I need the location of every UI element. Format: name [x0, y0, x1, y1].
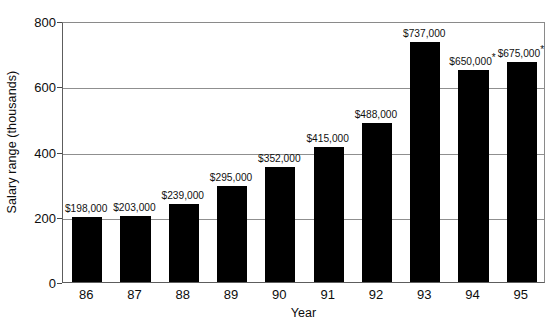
y-axis-tick-labels: 0200400600800 — [22, 0, 56, 328]
x-tick-label: 86 — [79, 288, 93, 301]
x-tick-label: 87 — [127, 288, 141, 301]
x-axis-tick-labels: 86878889909192939495 — [62, 288, 545, 306]
y-axis-title-text: Salary range (thousands) — [5, 70, 19, 213]
bar-chart: Salary range (thousands) 0200400600800 $… — [0, 0, 560, 328]
x-tick-label: 89 — [224, 288, 238, 301]
x-tick-label: 88 — [176, 288, 190, 301]
bar-value-label: $737,000 — [403, 29, 446, 39]
bar-value-label: $675,000* — [498, 49, 544, 59]
bar-value-label: $198,000 — [65, 204, 108, 214]
x-axis-title-text: Year — [291, 306, 316, 320]
bar-value-label: $352,000 — [258, 154, 301, 164]
y-tick-label: 400 — [22, 146, 56, 159]
bar-value-label: $295,000 — [210, 173, 253, 183]
y-tick-label: 200 — [22, 211, 56, 224]
x-tick-label: 93 — [417, 288, 431, 301]
x-tick-label: 91 — [320, 288, 334, 301]
y-tick-label: 0 — [22, 277, 56, 290]
bar-value-label: $415,000 — [306, 134, 349, 144]
y-tick-label: 800 — [22, 16, 56, 29]
bar-data-labels: $198,000$203,000$239,000$295,000$352,000… — [62, 22, 545, 283]
x-tick-label: 90 — [272, 288, 286, 301]
data-label-asterisk: * — [492, 52, 496, 63]
bar-value-label: $650,000* — [449, 57, 495, 67]
y-tick-label: 600 — [22, 81, 56, 94]
data-label-asterisk: * — [540, 43, 544, 54]
x-tick-label: 92 — [369, 288, 383, 301]
bar-value-label: $488,000 — [355, 110, 398, 120]
bar-value-label: $239,000 — [162, 191, 205, 201]
x-tick-label: 95 — [514, 288, 528, 301]
y-tick-mark — [57, 283, 62, 284]
bar-value-label: $203,000 — [113, 203, 156, 213]
x-tick-label: 94 — [465, 288, 479, 301]
x-axis-title: Year — [62, 306, 545, 320]
y-axis-title: Salary range (thousands) — [0, 0, 24, 283]
